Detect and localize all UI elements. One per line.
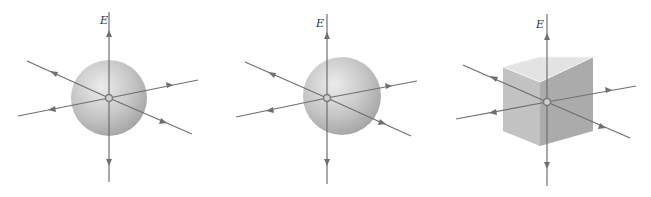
gauss-law-diagram: E E — [0, 0, 651, 197]
point-charge — [106, 95, 113, 102]
point-charge — [324, 95, 331, 102]
panel-sphere-offcenter: E — [236, 14, 417, 184]
panel-cube: E — [456, 14, 636, 186]
panel-sphere-centered: E — [18, 12, 198, 182]
point-charge — [544, 99, 551, 106]
field-label-e: E — [99, 14, 108, 27]
gaussian-sphere — [303, 57, 381, 135]
field-label-e: E — [535, 18, 544, 31]
field-label-e: E — [315, 17, 324, 30]
